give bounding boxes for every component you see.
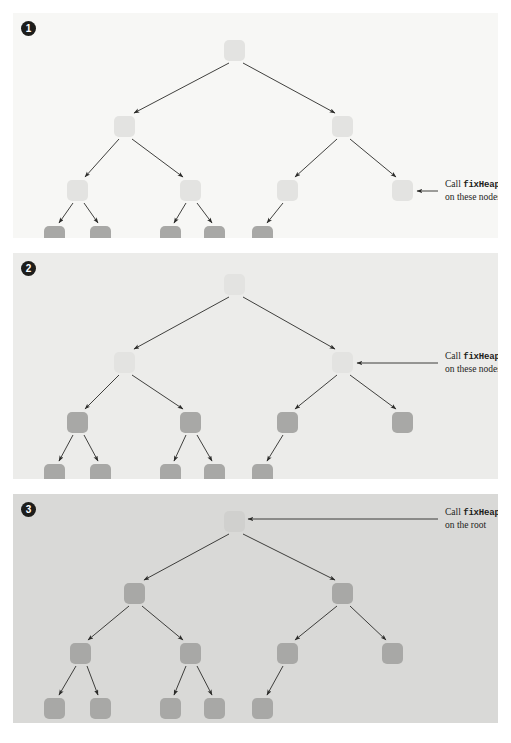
tree-node-l3-2: [160, 464, 181, 479]
callout-label-3: Call fixHeap on the root: [445, 507, 498, 531]
panel-step-2: 2: [13, 253, 498, 479]
callout-label-1: Call fixHeap on these nodes: [445, 179, 498, 203]
tree-node-l3-0: [44, 226, 65, 238]
tree-node-l2-1: [180, 643, 201, 664]
tree-node-l3-0: [44, 698, 65, 719]
tree-node-root: [224, 511, 245, 532]
panel-step-3: 3: [13, 494, 498, 723]
callout-prefix-1: Call: [445, 179, 463, 189]
callout-prefix-3: Call: [445, 507, 463, 517]
tree-node-l3-3: [204, 464, 225, 479]
tree-node-l2-2: [277, 180, 298, 201]
callout-code-1: fixHeap: [463, 180, 498, 190]
tree-node-l2-3: [392, 180, 413, 201]
tree-node-l3-1: [90, 464, 111, 479]
tree-node-l2-0: [67, 180, 88, 201]
callout-code-2: fixHeap: [463, 352, 498, 362]
tree-node-l2-2: [277, 412, 298, 433]
tree-node-l1-0: [114, 352, 135, 373]
callout-code-3: fixHeap: [463, 508, 498, 518]
tree-node-l1-1: [332, 583, 353, 604]
callout-label-2: Call fixHeap on these nodes: [445, 351, 498, 375]
tree-node-l2-0: [70, 643, 91, 664]
tree-node-l3-4: [252, 464, 273, 479]
tree-node-l1-1: [332, 352, 353, 373]
tree-node-l2-2: [277, 643, 298, 664]
tree-node-l3-1: [90, 698, 111, 719]
tree-node-l1-0: [114, 116, 135, 137]
tree-node-root: [224, 40, 245, 61]
callout-line2-2: on these nodes: [445, 364, 498, 376]
tree-edges-3: [13, 494, 498, 723]
tree-node-l3-4: [252, 698, 273, 719]
tree-node-l2-1: [180, 412, 201, 433]
tree-edges-1: [13, 13, 498, 238]
tree-node-l3-3: [204, 698, 225, 719]
panel-step-1: 1: [13, 13, 498, 238]
tree-node-l3-4: [252, 226, 273, 238]
callout-line2-1: on these nodes: [445, 192, 498, 204]
tree-node-l2-3: [392, 412, 413, 433]
tree-node-l2-0: [67, 412, 88, 433]
tree-node-l3-1: [90, 226, 111, 238]
tree-edges-2: [13, 253, 498, 479]
tree-node-l2-3: [382, 643, 403, 664]
tree-node-l1-1: [332, 116, 353, 137]
callout-line2-3: on the root: [445, 520, 498, 532]
tree-node-l3-3: [204, 226, 225, 238]
tree-node-l3-0: [44, 464, 65, 479]
figure-canvas: 1: [0, 0, 511, 743]
tree-node-l3-2: [160, 226, 181, 238]
callout-prefix-2: Call: [445, 351, 463, 361]
tree-node-root: [224, 274, 245, 295]
tree-node-l1-0: [124, 583, 145, 604]
tree-node-l3-2: [160, 698, 181, 719]
tree-node-l2-1: [180, 180, 201, 201]
